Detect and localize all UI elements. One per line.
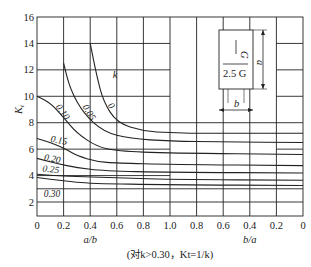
y-tick-label: 10 [24,91,35,102]
curve-label: 0.10 [54,102,72,122]
curve-label: 0.25 [42,164,60,175]
curve-k-0.05 [64,63,303,142]
curve-label: 0.30 [44,189,61,199]
y-tick-label: 16 [24,12,35,23]
x-tick-label: 0.6 [110,220,123,231]
inset-plate [219,30,253,89]
x-tick-label: 1.0 [163,220,176,231]
x-tick-label: 0.8 [190,220,203,231]
y-tick-label: 6 [29,144,34,155]
x-tick-label: 0.2 [57,220,70,231]
curve-label: 0.15 [50,134,68,147]
x-tick-label: 0 [34,220,39,231]
y-tick-label: 14 [24,38,35,49]
x-tick-label: 0.8 [137,220,150,231]
curve-label: 0 [106,101,117,111]
y-tick-label: 12 [24,64,35,75]
inset-top-label: G [239,51,250,59]
curve-label: k [113,69,118,80]
y-axis-label: Kt [13,104,26,115]
labels: k00.050.100.150.200.250.3024681012141600… [13,12,306,262]
x-tick-label: 0.4 [243,220,257,231]
dim-a-label: a [255,60,266,65]
y-tick-label: 2 [29,197,34,208]
kt-chart: G2.5 Gab k00.050.100.150.200.250.3024681… [0,0,311,267]
y-tick-label: 4 [29,170,35,181]
curve-label: 0.05 [81,103,98,123]
y-tick-label: 8 [29,117,34,128]
geometry-inset: G2.5 Gab [219,30,267,112]
inset-bottom-label: 2.5 G [223,68,247,79]
x-tick-label: 0 [300,220,305,231]
dim-b-label: b [234,98,239,109]
x-axis-label-left: a/b [83,234,96,245]
x-axis-label-right: b/a [243,234,256,245]
x-tick-label: 0.2 [270,220,283,231]
x-tick-label: 0.4 [84,220,98,231]
footnote: (对k>0.30，Kt=1/k) [127,248,214,261]
x-tick-label: 0.6 [217,220,230,231]
